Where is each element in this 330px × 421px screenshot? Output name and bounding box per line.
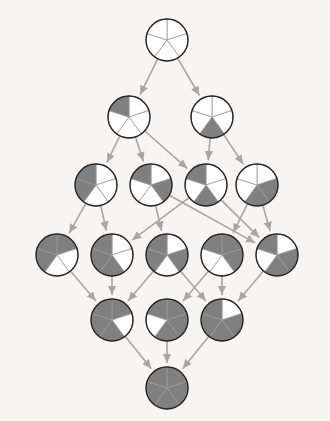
lattice-node-top-left-block[interactable] [36, 234, 78, 276]
lattice-node-missing-upper-right[interactable] [91, 299, 133, 341]
lattice-graph [0, 0, 330, 421]
lattice-node-left-lower-right[interactable] [91, 234, 133, 276]
lattice-node-left-half[interactable] [75, 164, 117, 206]
lattice-node-ul-lr[interactable] [185, 164, 227, 206]
lattice-node-upper-left[interactable] [108, 96, 150, 138]
lattice-node-lower-right[interactable] [191, 96, 233, 138]
lattice-node-ul-ur-lr[interactable] [256, 234, 298, 276]
lattice-node-right-pair[interactable] [236, 164, 278, 206]
lattice-node-upper-pair[interactable] [130, 164, 172, 206]
lattice-node-top-band[interactable] [201, 234, 243, 276]
lattice-node-full[interactable] [146, 367, 188, 409]
diagram-canvas [0, 0, 330, 421]
lattice-node-missing-top[interactable] [201, 299, 243, 341]
diagram-background [0, 0, 330, 421]
lattice-node-ul-ur-ll[interactable] [146, 234, 188, 276]
lattice-node-empty[interactable] [146, 19, 188, 61]
lattice-node-missing-lower-left[interactable] [146, 299, 188, 341]
